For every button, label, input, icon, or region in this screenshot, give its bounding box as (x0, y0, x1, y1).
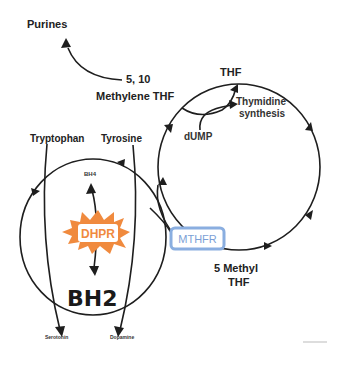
mthfr-enzyme-badge: MTHFR (171, 228, 224, 249)
dopamine-label: Dopamine (110, 334, 134, 340)
cycle-arrow-icon (305, 122, 313, 131)
tryptophan-label: Tryptophan (30, 133, 84, 144)
dump-label: dUMP (184, 131, 213, 142)
bh2-label: BH2 (67, 286, 118, 311)
dhpr-enzyme-badge: DHPR (62, 210, 130, 254)
arrow-icon (86, 183, 96, 194)
thymidine-label-line1: Thymidine (236, 96, 286, 107)
folate-biopterin-cycle-diagram: DHPR MTHFR Purines 5, 10 Methylene THF T… (0, 0, 346, 366)
arrow-icon (61, 38, 71, 48)
cycle-arrow-icon (305, 210, 313, 220)
dump-to-thymidine-line (200, 105, 232, 130)
thymidine-label-line2: synthesis (239, 108, 286, 119)
arrow-icon (89, 266, 99, 276)
methyl-thf-label-line1: 5 Methyl (214, 262, 258, 274)
methylene-thf-label-line1: 5, 10 (126, 73, 150, 85)
bh4-label: BH4 (84, 171, 97, 177)
purines-label: Purines (27, 18, 67, 30)
serotonin-label: Serotonin (45, 334, 68, 340)
dhpr-label: DHPR (81, 227, 115, 241)
thf-label: THF (220, 66, 242, 78)
methyl-thf-label-line2: THF (228, 276, 250, 288)
arrow-icon (230, 84, 238, 93)
mthfr-label: MTHFR (178, 233, 217, 245)
methylene-thf-label-line2: Methylene THF (96, 90, 175, 102)
tyrosine-label: Tyrosine (101, 133, 142, 144)
methylene-to-purines-line (68, 48, 122, 80)
